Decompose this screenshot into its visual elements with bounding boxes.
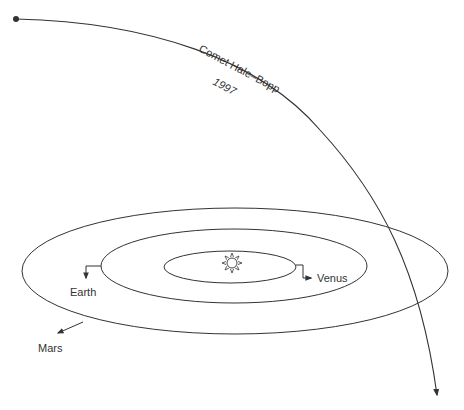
comet-name-label: Comet Hale–Bopp [197, 42, 282, 95]
venus-label: Venus [317, 272, 348, 284]
earth-label: Earth [70, 286, 96, 298]
comet-start-dot [13, 16, 19, 22]
mars-label: Mars [38, 342, 63, 354]
earth-pointer [86, 266, 101, 278]
venus-pointer [296, 265, 311, 278]
mars-pointer [58, 322, 83, 333]
sun-icon [222, 253, 242, 273]
solar-system-diagram: Venus Earth Mars Comet Hale–Bopp 1997 [0, 0, 464, 410]
comet-year-label: 1997 [211, 75, 239, 97]
comet-trajectory [16, 19, 437, 395]
